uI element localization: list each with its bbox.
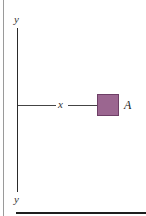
y-axis-label-top: y: [14, 14, 19, 25]
y-axis-line: [17, 28, 18, 192]
y-axis-label-bottom: y: [14, 194, 19, 205]
distance-line-left: [18, 105, 56, 106]
bottom-rule-divider: [16, 212, 146, 214]
distance-label: x: [58, 99, 63, 110]
page-left-border: [3, 0, 4, 216]
area-label: A: [124, 99, 131, 111]
area-element-square: [97, 94, 119, 116]
